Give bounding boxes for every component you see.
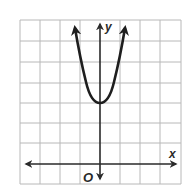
y-axis-label: y [104,20,113,34]
parabola-right-branch [100,28,125,103]
parabola-graph: y x O [0,0,187,195]
parabola-left-branch [75,28,100,103]
x-axis-label: x [168,147,177,161]
origin-label: O [83,170,93,185]
